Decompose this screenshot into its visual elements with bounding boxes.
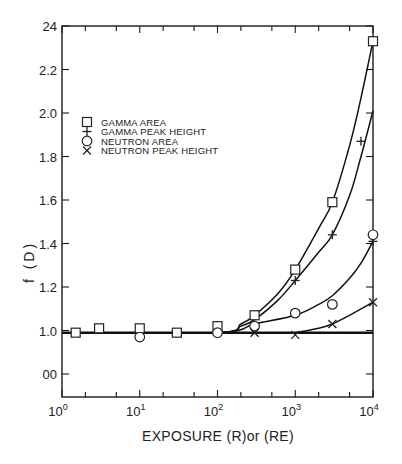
- chart: 242.22.01.81.61.41.21.000 10010110210310…: [0, 0, 402, 464]
- x-axis: 100101102103104: [48, 26, 378, 419]
- y-tick-label: 1.2: [39, 280, 57, 295]
- square-marker-icon: [250, 311, 259, 320]
- circle-marker-icon: [135, 332, 145, 342]
- circle-marker-icon: [368, 230, 378, 240]
- y-tick-label: 2.2: [39, 63, 57, 78]
- cross-marker-icon: [328, 320, 336, 328]
- square-marker-icon: [71, 328, 80, 337]
- y-axis-title: f (D): [21, 241, 37, 283]
- y-tick-label: 2.0: [39, 106, 57, 121]
- x-tick-label: 101: [126, 402, 145, 419]
- y-tick-label: 1.4: [39, 237, 57, 252]
- y-tick-label: 00: [43, 367, 57, 382]
- square-marker-icon: [291, 265, 300, 274]
- square-marker-icon: [328, 198, 337, 207]
- circle-marker-icon: [290, 308, 300, 318]
- circle-icon: [82, 136, 92, 146]
- x-axis-title: EXPOSURE (R)or (RE): [142, 428, 294, 444]
- y-tick-label: 1.0: [39, 324, 57, 339]
- y-tick-label: 1.6: [39, 193, 57, 208]
- plot-frame: [62, 26, 373, 397]
- y-tick-label: 24: [43, 19, 57, 34]
- square-marker-icon: [135, 324, 144, 333]
- curve-gamma-area: [62, 41, 373, 333]
- x-tick-label: 102: [204, 402, 223, 419]
- plus-icon: [83, 127, 92, 136]
- y-tick-label: 1.8: [39, 150, 57, 165]
- cross-icon: [83, 147, 91, 155]
- circle-marker-icon: [328, 300, 338, 310]
- plot-border: [62, 26, 373, 397]
- x-tick-label: 100: [48, 402, 67, 419]
- legend-item: NEUTRON PEAK HEIGHT: [83, 145, 218, 156]
- square-marker-icon: [172, 328, 181, 337]
- plus-marker-icon: [328, 230, 337, 239]
- x-tick-label: 104: [359, 402, 378, 419]
- square-marker-icon: [369, 37, 378, 46]
- square-marker-icon: [95, 324, 104, 333]
- fit-curves: [62, 41, 373, 333]
- curve-neutron-area: [62, 241, 373, 333]
- circle-marker-icon: [213, 328, 223, 338]
- legend-label: NEUTRON PEAK HEIGHT: [101, 145, 218, 156]
- legend: GAMMA AREAGAMMA PEAK HEIGHTNEUTRON AREAN…: [82, 117, 218, 157]
- x-tick-label: 103: [282, 402, 301, 419]
- square-icon: [83, 118, 92, 127]
